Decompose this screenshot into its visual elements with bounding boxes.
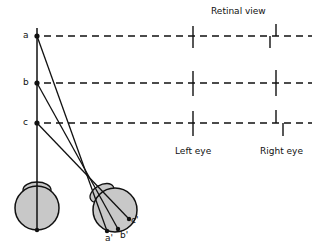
label-c-prime: c'	[131, 215, 138, 225]
label-b-prime: b'	[120, 230, 128, 240]
point-c	[34, 120, 39, 125]
dashed-lines	[44, 36, 312, 123]
retinal-view-title: Retinal view	[211, 6, 266, 16]
left-fovea-point	[35, 228, 39, 232]
retinal-markers	[193, 24, 283, 136]
label-a: a	[23, 30, 29, 40]
label-a-prime: a'	[105, 233, 113, 243]
diagram-svg	[0, 0, 318, 245]
label-c: c	[23, 117, 28, 127]
right-eye-label: Right eye	[260, 146, 303, 156]
label-b: b	[23, 77, 29, 87]
point-a	[34, 33, 39, 38]
diagram-stage: a b c a' b' c' Retinal view Left eye Rig…	[0, 0, 318, 245]
left-eye-label: Left eye	[175, 146, 211, 156]
point-b	[34, 80, 39, 85]
